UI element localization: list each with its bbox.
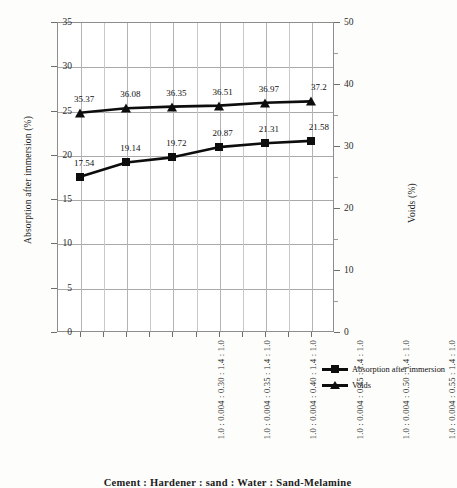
data-point-triangle [75,108,85,117]
legend-item[interactable]: Absorption after immersion [322,361,445,377]
data-point-label: 36.51 [212,87,232,97]
data-point-label: 37.2 [311,82,327,92]
data-point-square [168,153,176,161]
series-line [80,101,311,112]
data-point-triangle [260,98,270,107]
data-point-label: 17.54 [74,158,94,168]
data-point-label: 36.97 [259,84,279,94]
data-point-square [215,143,223,151]
legend-item[interactable]: Voids [322,377,445,393]
data-point-label: 21.58 [309,122,329,132]
legend-square-icon [322,363,348,375]
data-point-label: 35.37 [74,94,94,104]
data-point-square [307,137,315,145]
legend-label: Voids [352,381,371,390]
data-point-square [122,158,130,166]
legend-triangle-icon [322,379,348,391]
data-point-square [261,139,269,147]
data-point-label: 36.35 [166,88,186,98]
data-point-label: 19.14 [120,143,140,153]
data-point-square [76,173,84,181]
data-point-label: 21.31 [259,124,279,134]
data-point-label: 36.08 [120,89,140,99]
data-point-label: 19.72 [166,138,186,148]
legend-marker-square [331,365,339,373]
legend-marker-triangle [330,381,340,389]
data-point-triangle [167,102,177,111]
data-point-triangle [121,104,131,113]
data-point-triangle [214,101,224,110]
chart-legend: Absorption after immersionVoids [322,361,445,393]
data-point-label: 20.87 [212,128,232,138]
series-line [80,141,311,177]
legend-label: Absorption after immersion [352,365,445,374]
data-point-triangle [306,97,316,106]
